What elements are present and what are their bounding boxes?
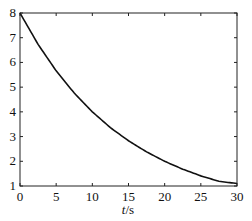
axis-ticks <box>20 13 237 186</box>
x-tick-label: 0 <box>17 189 24 204</box>
tick-labels: 05101520253012345678 <box>10 5 244 204</box>
y-tick-label: 1 <box>10 178 17 193</box>
y-tick-label: 6 <box>10 54 17 69</box>
y-tick-label: 5 <box>10 79 17 94</box>
y-tick-label: 4 <box>10 104 17 119</box>
y-tick-label: 8 <box>10 5 17 20</box>
x-tick-label: 30 <box>231 189 244 204</box>
data-line <box>20 13 237 184</box>
x-tick-label: 5 <box>53 189 60 204</box>
chart: 05101520253012345678 t/s <box>0 0 252 221</box>
x-tick-label: 20 <box>158 189 171 204</box>
y-tick-label: 2 <box>10 153 17 168</box>
y-tick-label: 3 <box>10 129 17 144</box>
x-tick-label: 25 <box>194 189 207 204</box>
x-axis-label: t/s <box>122 202 134 217</box>
y-tick-label: 7 <box>10 30 17 45</box>
plot-frame <box>20 13 237 186</box>
x-tick-label: 10 <box>86 189 99 204</box>
